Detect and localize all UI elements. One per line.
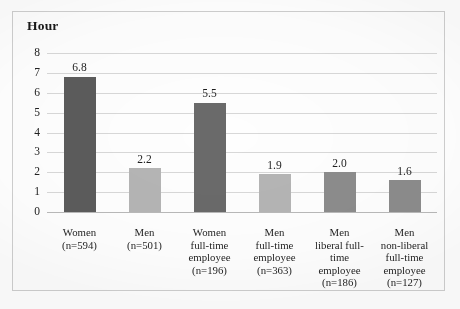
category-label-line: liberal full- xyxy=(307,239,372,252)
bar-slot: 2.0 xyxy=(307,53,372,212)
bar-value-label: 5.5 xyxy=(202,88,216,100)
category-label-line: Men xyxy=(372,226,437,239)
y-axis-tick-label: 8 xyxy=(34,47,40,59)
x-axis-category-label: Menfull-timeemployee(n=363) xyxy=(242,226,307,276)
chart-title: Hour xyxy=(27,18,59,34)
category-label-line: Women xyxy=(47,226,112,239)
chart-frame: Hour 876543210 6.82.25.51.92.01.6 Women(… xyxy=(12,11,445,291)
category-label-line: (n=363) xyxy=(242,264,307,277)
category-label-line: employee xyxy=(307,264,372,277)
bar-slot: 1.6 xyxy=(372,53,437,212)
x-axis-category-label: Menliberal full-timeemployee(n=186) xyxy=(307,226,372,289)
y-axis-tick-label: 4 xyxy=(34,127,40,139)
bar-value-label: 6.8 xyxy=(72,62,86,74)
bar-series: 6.82.25.51.92.01.6 xyxy=(47,53,437,212)
bar-slot: 1.9 xyxy=(242,53,307,212)
bar-value-label: 2.2 xyxy=(137,154,151,166)
category-label-line: employee xyxy=(242,251,307,264)
bar[interactable] xyxy=(324,172,356,212)
y-axis-tick-label: 5 xyxy=(34,107,40,119)
category-label-line: Men xyxy=(242,226,307,239)
x-axis-category-label: Men(n=501) xyxy=(112,226,177,251)
y-axis-tick-label: 0 xyxy=(34,206,40,218)
y-axis-tick-label: 1 xyxy=(34,186,40,198)
bar[interactable] xyxy=(389,180,421,212)
bar[interactable] xyxy=(129,168,161,212)
category-label-line: Men xyxy=(307,226,372,239)
x-axis-category-label: Women(n=594) xyxy=(47,226,112,251)
category-label-line: (n=127) xyxy=(372,276,437,289)
axis-baseline xyxy=(47,212,437,213)
bar-value-label: 1.9 xyxy=(267,160,281,172)
bar-value-label: 1.6 xyxy=(397,166,411,178)
plot-area: 876543210 6.82.25.51.92.01.6 xyxy=(47,53,437,212)
chart-page: Hour 876543210 6.82.25.51.92.01.6 Women(… xyxy=(0,0,460,309)
bar-value-label: 2.0 xyxy=(332,158,346,170)
category-label-line: employee xyxy=(372,264,437,277)
y-axis-tick-label: 7 xyxy=(34,67,40,79)
bar[interactable] xyxy=(259,174,291,212)
bar-slot: 5.5 xyxy=(177,53,242,212)
category-label-line: non-liberal xyxy=(372,239,437,252)
y-axis-tick-label: 6 xyxy=(34,87,40,99)
y-axis-tick-label: 2 xyxy=(34,167,40,179)
category-label-line: (n=196) xyxy=(177,264,242,277)
category-label-line: (n=501) xyxy=(112,239,177,252)
category-label-line: time xyxy=(307,251,372,264)
x-axis-category-label: Womenfull-timeemployee(n=196) xyxy=(177,226,242,276)
x-axis-category-labels: Women(n=594)Men(n=501)Womenfull-timeempl… xyxy=(47,226,437,298)
category-label-line: full-time xyxy=(177,239,242,252)
bar-slot: 6.8 xyxy=(47,53,112,212)
category-label-line: full-time xyxy=(242,239,307,252)
bar[interactable] xyxy=(194,103,226,212)
category-label-line: (n=186) xyxy=(307,276,372,289)
y-axis-tick-label: 3 xyxy=(34,147,40,159)
bar[interactable] xyxy=(64,77,96,212)
category-label-line: Women xyxy=(177,226,242,239)
category-label-line: employee xyxy=(177,251,242,264)
category-label-line: full-time xyxy=(372,251,437,264)
category-label-line: (n=594) xyxy=(47,239,112,252)
x-axis-category-label: Mennon-liberalfull-timeemployee(n=127) xyxy=(372,226,437,289)
bar-slot: 2.2 xyxy=(112,53,177,212)
category-label-line: Men xyxy=(112,226,177,239)
